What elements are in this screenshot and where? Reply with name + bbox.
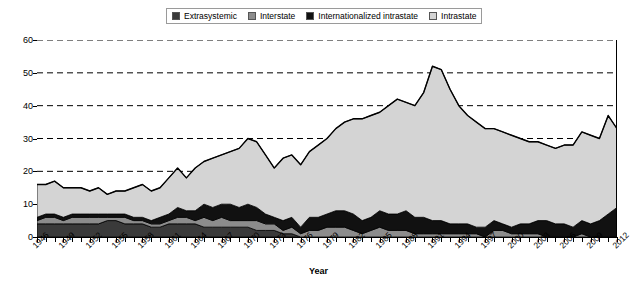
x-axis-tick-label: 2012 bbox=[611, 231, 630, 250]
x-axis-tick-label: 1958 bbox=[136, 231, 155, 250]
x-axis-tick-label: 1952 bbox=[84, 231, 103, 250]
x-axis-tick-label: 1976 bbox=[295, 231, 314, 250]
x-axis-tick-label: 1997 bbox=[479, 231, 498, 250]
y-axis-tick-mark bbox=[33, 40, 37, 41]
x-axis-tick-label: 1964 bbox=[189, 231, 208, 250]
x-axis-tick-label: 1970 bbox=[242, 231, 261, 250]
x-axis-tick-label: 1982 bbox=[347, 231, 366, 250]
x-axis-tick-labels: 1946194919521955195819611964196719701973… bbox=[0, 0, 637, 285]
x-axis-tick-label: 1961 bbox=[163, 231, 182, 250]
x-axis-tick-label: 1979 bbox=[321, 231, 340, 250]
x-axis-tick-label: 2003 bbox=[532, 231, 551, 250]
y-axis-tick-mark bbox=[33, 139, 37, 140]
y-axis-tick-mark bbox=[33, 204, 37, 205]
x-axis-tick-label: 1985 bbox=[374, 231, 393, 250]
x-axis-tick-label: 1973 bbox=[268, 231, 287, 250]
x-axis-tick-label: 1949 bbox=[57, 231, 76, 250]
x-axis-tick-label: 1988 bbox=[400, 231, 419, 250]
x-axis-tick-label: 1991 bbox=[426, 231, 445, 250]
stacked-area-chart: ExtrasystemicInterstateInternationalized… bbox=[0, 0, 637, 285]
x-axis-tick-label: 2000 bbox=[506, 231, 525, 250]
x-axis-tick-label: 1946 bbox=[31, 231, 50, 250]
x-axis-title: Year bbox=[0, 266, 637, 276]
x-axis-tick-label: 1967 bbox=[216, 231, 235, 250]
y-axis-tick-mark bbox=[33, 237, 37, 238]
x-axis-tick-label: 1955 bbox=[110, 231, 129, 250]
x-axis-tick-label: 1994 bbox=[453, 231, 472, 250]
y-axis-tick-mark bbox=[33, 171, 37, 172]
x-axis-tick-label: 2009 bbox=[585, 231, 604, 250]
y-axis-tick-mark bbox=[33, 73, 37, 74]
y-axis-tick-mark bbox=[33, 106, 37, 107]
x-axis-tick-label: 2006 bbox=[558, 231, 577, 250]
